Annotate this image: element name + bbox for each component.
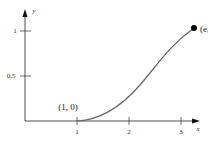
y-axis-arrow-icon [23, 9, 28, 17]
y-axis-label: y [31, 7, 36, 15]
end-point-marker [191, 25, 197, 31]
chart: 1 2 3 1 0.5 x y (1, 0) (e, 1) [0, 0, 208, 145]
x-tick-label-2: 2 [127, 128, 131, 136]
x-tick-label-3: 3 [179, 128, 183, 136]
annotation-start: (1, 0) [58, 102, 78, 112]
y-tick-label-1: 1 [13, 27, 17, 35]
x-axis-arrow-icon [192, 119, 200, 124]
y-tick-label-05: 0.5 [7, 72, 16, 80]
x-axis-label: x [195, 125, 200, 133]
x-tick-label-1: 1 [75, 128, 79, 136]
curve-line [77, 28, 194, 121]
annotation-end: (e, 1) [200, 24, 208, 34]
